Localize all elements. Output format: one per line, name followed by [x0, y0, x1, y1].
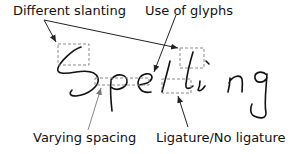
i-dot — [206, 61, 209, 64]
letter-l1 — [162, 61, 170, 92]
letter-s — [58, 47, 99, 96]
annotation-boxes — [58, 44, 204, 93]
letter-i — [198, 81, 205, 91]
label-varying-spacing: Varying spacing — [33, 131, 136, 144]
ligature-arrow — [178, 96, 188, 127]
label-use-of-glyphs: Use of glyphs — [145, 4, 233, 17]
letter-n — [228, 76, 242, 92]
handwriting-annotation-diagram: Different slanting Use of glyphs Varying… — [0, 0, 302, 154]
label-different-slanting: Different slanting — [13, 4, 126, 17]
letter-l2 — [186, 52, 193, 88]
letter-p — [111, 75, 127, 111]
slanting-arrow-left — [44, 20, 56, 42]
spacing-arrow — [88, 88, 101, 130]
label-ligature: Ligature/No ligature — [156, 131, 286, 144]
letter-g — [251, 72, 267, 118]
letter-e — [138, 74, 152, 93]
